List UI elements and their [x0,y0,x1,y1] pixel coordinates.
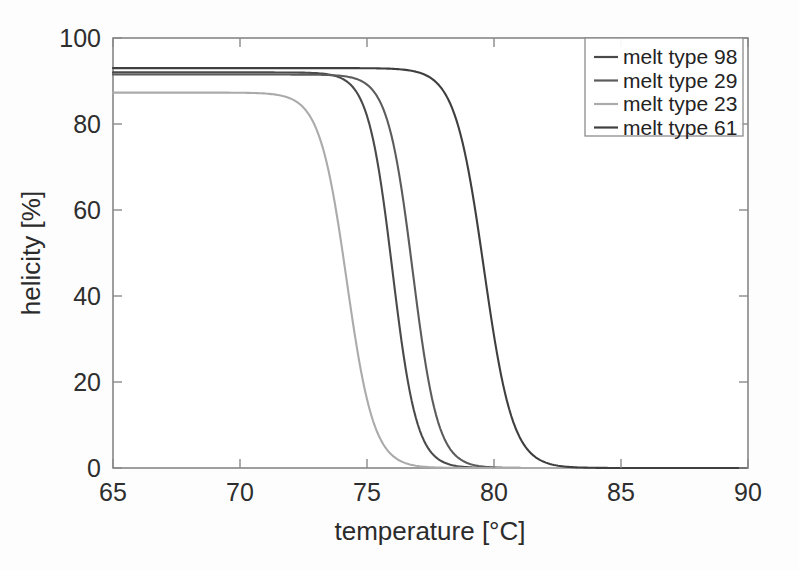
x-tick-label: 80 [480,478,508,506]
y-tick-label: 40 [73,282,101,310]
y-tick-label: 80 [73,110,101,138]
x-tick-label: 70 [226,478,254,506]
legend-label: melt type 29 [623,69,737,92]
x-axis-title: temperature [°C] [334,516,525,546]
helicity-vs-temperature-chart: 657075808590020406080100 melt type 98mel… [0,0,799,570]
legend-label: melt type 23 [623,92,737,115]
x-tick-label: 75 [353,478,381,506]
y-tick-label: 60 [73,196,101,224]
x-tick-label: 85 [607,478,635,506]
y-tick-label: 0 [87,454,101,482]
y-tick-label: 100 [59,24,101,52]
chart-figure: 657075808590020406080100 melt type 98mel… [0,0,799,570]
x-tick-label: 65 [99,478,127,506]
legend-label: melt type 98 [623,45,737,68]
x-tick-label: 90 [734,478,762,506]
legend-label: melt type 61 [623,116,737,139]
chart-legend: melt type 98melt type 29melt type 23melt… [585,38,743,139]
y-axis-title: helicity [%] [16,191,46,315]
y-tick-label: 20 [73,368,101,396]
